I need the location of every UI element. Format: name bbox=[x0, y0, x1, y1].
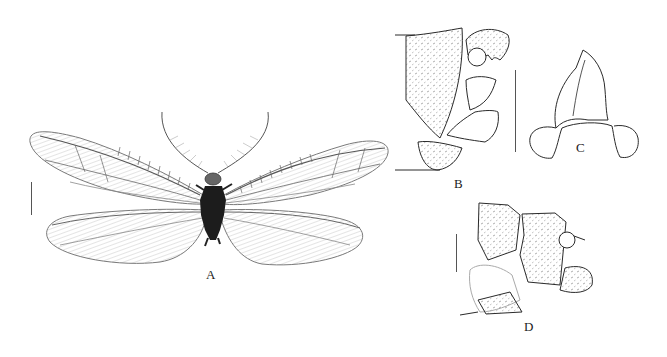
panel-label-d: D bbox=[524, 320, 533, 333]
figure-plate: A B C D bbox=[0, 0, 667, 357]
panel-b-drawing bbox=[395, 28, 516, 170]
right-hindwing bbox=[222, 209, 363, 264]
figure-drawing bbox=[0, 0, 667, 357]
right-forewing bbox=[222, 141, 388, 205]
left-hindwing bbox=[47, 209, 205, 263]
panel-a-insect bbox=[30, 112, 388, 265]
panel-label-c: C bbox=[576, 141, 585, 154]
left-forewing bbox=[30, 132, 205, 204]
panel-label-b: B bbox=[454, 177, 463, 190]
panel-label-a: A bbox=[206, 268, 215, 281]
panel-d-drawing bbox=[457, 203, 593, 315]
antennae bbox=[162, 112, 268, 173]
